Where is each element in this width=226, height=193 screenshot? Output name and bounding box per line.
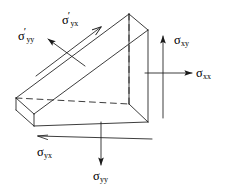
- subscript-text: yy: [26, 35, 34, 44]
- sigma-glyph: σ: [37, 145, 44, 159]
- label-sigma-xy: σxy: [174, 34, 189, 48]
- subscript-text: xy: [181, 39, 189, 48]
- label-sigma-xx: σxx: [196, 67, 211, 81]
- subscript-text: yx: [70, 19, 78, 28]
- label-sigma-prime-yx: σ′yx: [62, 10, 78, 28]
- subscript-text: yy: [100, 175, 108, 184]
- subscript-text: yx: [44, 151, 52, 160]
- stress-wedge-figure: σ′yy σ′yx σxy σxx σyx σyy: [0, 0, 226, 193]
- label-sigma-yx: σyx: [37, 146, 52, 160]
- sigma-yx-arrow: [38, 136, 152, 139]
- wedge-right-end-face: [129, 14, 148, 122]
- subscript-text: xx: [203, 72, 211, 81]
- sigma-glyph: σ: [93, 169, 100, 183]
- sigma-glyph: σ: [196, 66, 203, 80]
- wedge-front-faces: [34, 30, 148, 126]
- sigma-prime-yx-arrow: [36, 27, 101, 76]
- label-sigma-prime-yy: σ′yy: [18, 26, 34, 44]
- sigma-glyph: σ: [174, 33, 181, 47]
- label-sigma-yy: σyy: [93, 170, 108, 184]
